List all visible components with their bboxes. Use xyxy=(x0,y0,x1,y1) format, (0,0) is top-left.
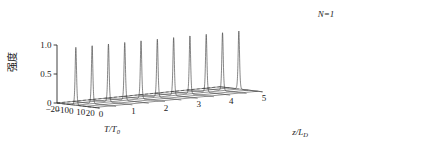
y-axis-title: 强度 xyxy=(6,52,18,72)
z-tick-label: 2 xyxy=(164,103,169,113)
z-tick-label: 0 xyxy=(99,109,104,119)
waterfall-chart: 00.51.0−20−1001020012345强度T/T0z/LDN=1 xyxy=(0,0,421,148)
x-tick-label: 20 xyxy=(86,108,96,118)
z-tick-label: 3 xyxy=(196,99,201,109)
y-tick-label: 1.0 xyxy=(40,40,52,50)
soliton-order-annotation: N=1 xyxy=(317,9,335,19)
x-tick-label: 10 xyxy=(76,107,86,117)
chart-background xyxy=(0,0,421,148)
z-tick-label: 1 xyxy=(131,106,136,116)
z-tick-label: 5 xyxy=(262,93,267,103)
svg-text:强度: 强度 xyxy=(6,52,18,72)
x-tick-label: 0 xyxy=(69,106,74,116)
y-tick-label: 0.5 xyxy=(40,69,52,79)
x-tick-label: −10 xyxy=(55,105,70,115)
z-tick-label: 4 xyxy=(229,96,234,106)
